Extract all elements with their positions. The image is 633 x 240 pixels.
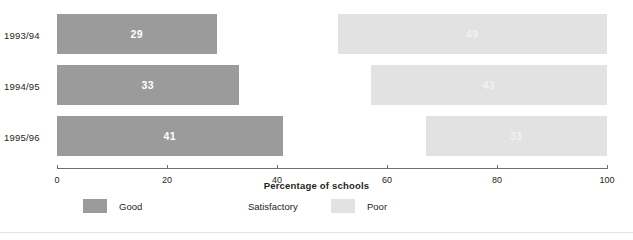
- legend-swatch-good-icon: [83, 199, 107, 213]
- bar-segment-poor[interactable]: 43: [371, 65, 608, 105]
- legend-label-good: Good: [119, 201, 142, 212]
- legend-swatch-satisfactory-icon: [212, 199, 236, 213]
- x-axis-tick: [57, 165, 58, 169]
- category-label-1993-94: 1993/94: [4, 30, 54, 41]
- legend-swatch-poor-icon: [331, 199, 355, 213]
- bar-segment-poor[interactable]: 33: [426, 116, 608, 156]
- x-axis-tick: [167, 165, 168, 169]
- x-axis-tick: [277, 165, 278, 169]
- bar-value-good: 41: [164, 130, 176, 142]
- bar-segment-satisfactory[interactable]: [283, 116, 426, 156]
- legend-item-satisfactory[interactable]: Satisfactory: [212, 198, 298, 214]
- legend-label-poor: Poor: [367, 201, 387, 212]
- bar-segment-good[interactable]: 41: [57, 116, 283, 156]
- legend-item-good[interactable]: Good: [83, 198, 142, 214]
- bar-value-poor: 33: [510, 130, 522, 142]
- plot-area: 29 49 33 43 41: [57, 0, 607, 168]
- chart-container: 1993/94 1994/95 1995/96 29 49 33 43: [0, 0, 633, 240]
- bar-value-good: 33: [142, 79, 154, 91]
- bar-row-1995-96: 41 33: [57, 116, 607, 156]
- bottom-divider: [0, 232, 633, 233]
- bar-value-poor: 43: [483, 79, 495, 91]
- bar-row-1993-94: 29 49: [57, 14, 607, 54]
- category-label-1995-96: 1995/96: [4, 132, 54, 143]
- bar-segment-satisfactory[interactable]: [239, 65, 371, 105]
- bar-value-poor: 49: [466, 28, 478, 40]
- bar-segment-satisfactory[interactable]: [217, 14, 338, 54]
- x-axis-tick: [497, 165, 498, 169]
- x-axis-tick: [387, 165, 388, 169]
- bar-segment-good[interactable]: 29: [57, 14, 217, 54]
- bar-value-good: 29: [131, 28, 143, 40]
- x-axis-tick: [607, 165, 608, 169]
- bar-segment-poor[interactable]: 49: [338, 14, 608, 54]
- x-axis-title: Percentage of schools: [0, 180, 633, 191]
- legend-label-satisfactory: Satisfactory: [248, 201, 298, 212]
- chart-legend: Good Satisfactory Poor: [0, 198, 633, 216]
- bar-row-1994-95: 33 43: [57, 65, 607, 105]
- x-axis-line: [57, 168, 607, 169]
- legend-item-poor[interactable]: Poor: [331, 198, 387, 214]
- bar-segment-good[interactable]: 33: [57, 65, 239, 105]
- category-label-1994-95: 1994/95: [4, 81, 54, 92]
